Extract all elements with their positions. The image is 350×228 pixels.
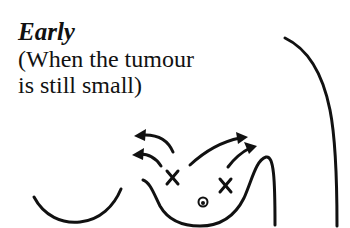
- arrow-upper-left-2: [132, 148, 161, 166]
- arrow-upper-left-1: [134, 129, 173, 152]
- tumour-x-mark-left: [167, 171, 178, 184]
- tumour-x-mark-right: [220, 179, 231, 192]
- left-breast-outline: [34, 189, 121, 222]
- chest-diagram: [0, 0, 350, 228]
- right-breast-outline: [143, 157, 275, 226]
- arrow-upper-right-1: [190, 132, 248, 165]
- body-side-outline: [285, 38, 337, 226]
- arrow-upper-right-2: [228, 142, 257, 167]
- nipple-icon: [199, 198, 208, 207]
